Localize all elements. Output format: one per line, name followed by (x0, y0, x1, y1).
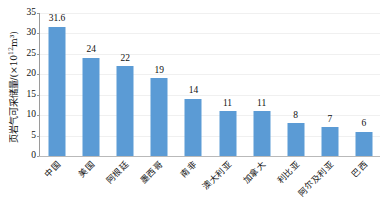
x-axis-category-label: 南非 (180, 160, 199, 179)
bar-value-label: 11 (223, 99, 232, 109)
bar-value-label: 24 (86, 45, 96, 55)
y-axis-tick-label: 0 (31, 151, 36, 161)
bar-slot: 11 (211, 13, 245, 156)
y-axis-tick-label: 30 (27, 29, 37, 39)
y-axis-tick-label: 20 (27, 70, 37, 80)
bar[interactable] (219, 111, 236, 156)
y-axis-tick-label: 10 (27, 110, 37, 120)
bar[interactable] (321, 127, 338, 156)
x-axis-label-slot: 墨西哥 (141, 158, 175, 214)
x-axis-line (39, 156, 380, 157)
bar-value-label: 11 (257, 99, 266, 109)
bar[interactable] (253, 111, 270, 156)
bar-slot: 11 (245, 13, 279, 156)
bar-slot: 8 (279, 13, 313, 156)
y-axis-title-exponent: 12 (7, 47, 15, 55)
bar-slot: 14 (176, 13, 210, 156)
bar-slot: 24 (74, 13, 108, 156)
bar-value-label: 14 (189, 86, 199, 96)
bar-value-label: 7 (327, 115, 332, 125)
x-axis-category-label: 加拿大 (242, 160, 267, 185)
bar[interactable] (83, 58, 100, 156)
bar-value-label: 19 (155, 66, 165, 76)
plot-area: 31.6242219141111876 (39, 13, 380, 156)
bar-value-label: 31.6 (49, 14, 66, 24)
x-axis-category-label: 巴西 (350, 160, 369, 179)
x-axis-label-slot: 澳大利亚 (210, 158, 244, 214)
y-axis-tick-label: 15 (27, 90, 37, 100)
bar[interactable] (151, 78, 168, 156)
y-axis-tick-label: 5 (31, 131, 36, 141)
bar-slot: 22 (108, 13, 142, 156)
bar-value-label: 8 (293, 111, 298, 121)
bar-slot: 31.6 (40, 13, 74, 156)
x-axis-category-label: 阿根廷 (105, 160, 130, 185)
bar-value-label: 6 (362, 119, 367, 129)
y-axis-tick-labels: 05101520253035 (18, 13, 36, 156)
bar[interactable] (49, 27, 66, 156)
bar[interactable] (117, 66, 134, 156)
x-axis-category-labels: 中国美国阿根廷墨西哥南非澳大利亚加拿大利比亚阿尔及利亚巴西 (39, 158, 380, 214)
x-axis-label-slot: 美国 (73, 158, 107, 214)
shale-gas-reserves-bar-chart: 页岩气可采储量/(×1012m³) 05101520253035 31.6242… (0, 0, 384, 214)
x-axis-category-label: 美国 (77, 160, 96, 179)
bar[interactable] (185, 99, 202, 156)
x-axis-category-label: 中国 (43, 160, 62, 179)
y-axis-tick-label: 25 (27, 49, 37, 59)
x-axis-label-slot: 中国 (39, 158, 73, 214)
bar-value-label: 22 (120, 54, 130, 64)
x-axis-category-label: 利比亚 (276, 160, 301, 185)
bar-series: 31.6242219141111876 (40, 13, 380, 156)
bar-slot: 19 (142, 13, 176, 156)
bar-slot: 6 (347, 13, 381, 156)
x-axis-category-label: 墨西哥 (139, 160, 164, 185)
x-axis-label-slot: 阿尔及利亚 (312, 158, 346, 214)
x-axis-label-slot: 巴西 (346, 158, 380, 214)
x-axis-label-slot: 加拿大 (244, 158, 278, 214)
bar-slot: 7 (313, 13, 347, 156)
bar[interactable] (355, 132, 372, 157)
x-axis-label-slot: 阿根廷 (107, 158, 141, 214)
bar[interactable] (287, 123, 304, 156)
y-axis-tick-label: 35 (27, 8, 37, 18)
